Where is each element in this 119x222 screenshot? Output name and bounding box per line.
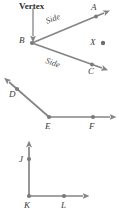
point-label-b: B — [19, 36, 25, 45]
point-dot-x — [101, 41, 105, 45]
point-dot-k — [27, 194, 31, 198]
point-label-l: L — [61, 201, 66, 210]
point-dot-b — [30, 41, 34, 45]
geometry-vector-layer — [0, 0, 119, 222]
vertex-annotation-label: Vertex — [19, 2, 44, 11]
point-label-x: X — [90, 38, 96, 47]
point-label-d: D — [9, 90, 16, 99]
point-label-e: E — [45, 122, 51, 131]
geometry-figure: Vertex Side Side A B C X D E F J K L — [0, 0, 119, 222]
point-dot-a — [94, 15, 98, 19]
point-label-a: A — [91, 3, 97, 12]
point-label-k: K — [24, 201, 30, 210]
point-dot-l — [62, 194, 66, 198]
point-dot-f — [91, 115, 95, 119]
ray-e-to-d — [9, 82, 49, 117]
point-label-j: J — [19, 155, 23, 164]
point-label-c: C — [88, 67, 94, 76]
point-dot-j — [27, 157, 31, 161]
point-dot-e — [47, 115, 51, 119]
diagram-point-x — [101, 41, 105, 45]
diagram-angle-def — [9, 82, 110, 119]
diagram-angle-jkl — [27, 147, 83, 198]
point-label-f: F — [89, 122, 95, 131]
